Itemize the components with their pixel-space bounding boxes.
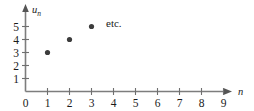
- x-tick-label-6: 6: [155, 97, 161, 109]
- x-tick-label-1: 1: [45, 97, 51, 109]
- y-axis-label-subscript: n: [37, 9, 41, 18]
- x-axis-label: n: [238, 86, 243, 97]
- y-tick-label-5: 5: [13, 21, 19, 33]
- x-tick-label-7: 7: [177, 97, 183, 109]
- x-axis-arrowhead: [224, 88, 232, 95]
- y-tick-label-1: 1: [13, 73, 19, 85]
- x-tick-label-2: 2: [67, 97, 73, 109]
- sequence-plot-figure: 1 2 3 4 5 0 1 2 3 4 5 6 7 8 9 un n etc.: [0, 0, 254, 111]
- data-point: [67, 37, 72, 42]
- data-point: [89, 24, 94, 29]
- plot-canvas: 1 2 3 4 5 0 1 2 3 4 5 6 7 8 9 un n etc.: [0, 0, 254, 111]
- x-tick-label-3: 3: [89, 97, 95, 109]
- x-tick-label-4: 4: [111, 97, 117, 109]
- y-axis-arrowhead: [22, 4, 29, 12]
- etc-annotation: etc.: [106, 17, 122, 29]
- x-tick-label-8: 8: [199, 97, 205, 109]
- y-tick-label-4: 4: [13, 34, 19, 46]
- data-point: [45, 50, 50, 55]
- y-axis-label: un: [32, 4, 41, 18]
- y-tick-label-3: 3: [13, 47, 19, 59]
- y-tick-label-2: 2: [13, 60, 19, 72]
- x-tick-label-9: 9: [221, 97, 227, 109]
- x-tick-label-0: 0: [23, 97, 29, 109]
- x-tick-label-5: 5: [133, 97, 139, 109]
